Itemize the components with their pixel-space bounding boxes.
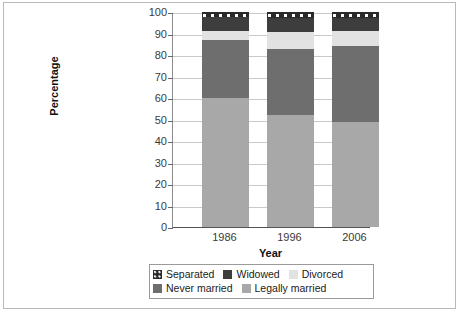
y-axis-tick [168,142,173,143]
legend-item[interactable]: Never married [153,283,233,294]
y-axis-tick-label: 80 [137,50,167,61]
legend-row: SeparatedWidowedDivorced [153,267,370,281]
plot-area [172,13,369,228]
x-axis-tick-label: 1996 [260,231,320,243]
legend-label: Separated [166,269,214,280]
legend-row: Never marriedLegally married [153,281,370,295]
stacked-bar-chart: 0102030405060708090100 Percentage 198619… [0,0,462,314]
bar-segment-widowed [332,18,379,31]
y-axis-tick [168,207,173,208]
bar-segment-separated [332,12,379,18]
legend-label: Divorced [302,269,343,280]
bar-1996 [267,12,314,227]
legend-swatch-icon [223,270,232,279]
x-axis-title: Year [172,247,369,259]
y-axis-tick [168,228,173,229]
y-axis-tick-label: 100 [137,7,167,18]
y-axis-tick-label: 40 [137,136,167,147]
legend-item[interactable]: Separated [153,269,214,280]
bar-2006 [332,12,379,227]
y-axis-tick [168,99,173,100]
y-axis-tick [168,185,173,186]
y-axis-tick [168,13,173,14]
legend-item[interactable]: Divorced [289,269,343,280]
y-axis-tick-label: 0 [137,222,167,233]
bar-segment-widowed [267,18,314,32]
legend-swatch-icon [153,270,162,279]
y-axis-tick-label: 70 [137,72,167,83]
y-axis-tick-labels: 0102030405060708090100 [133,13,167,228]
y-axis-tick [168,164,173,165]
legend-label: Never married [166,283,233,294]
bar-segment-never [332,46,379,121]
legend-label: Widowed [236,269,279,280]
x-axis-tick-labels: 198619962006 [172,231,369,247]
chart-legend: SeparatedWidowedDivorced Never marriedLe… [149,264,374,299]
legend-swatch-icon [242,284,251,293]
bar-1986 [202,12,249,227]
bar-segment-legally [267,115,314,227]
y-axis-tick-label: 30 [137,158,167,169]
y-axis-tick-label: 50 [137,115,167,126]
y-axis-tick [168,56,173,57]
bar-segment-legally [202,98,249,227]
legend-item[interactable]: Legally married [242,283,327,294]
y-axis-tick [168,121,173,122]
y-axis-tick-label: 90 [137,29,167,40]
bar-segment-separated [267,12,314,18]
y-axis-tick [168,35,173,36]
x-axis-tick-label: 1986 [195,231,255,243]
x-axis-tick-label: 2006 [325,231,385,243]
bar-segment-never [202,40,249,98]
legend-swatch-icon [289,270,298,279]
bar-segment-never [267,49,314,116]
bar-segment-divorced [332,31,379,46]
legend-swatch-icon [153,284,162,293]
bar-segment-widowed [202,17,249,31]
bar-segment-divorced [202,31,249,40]
legend-item[interactable]: Widowed [223,269,279,280]
y-axis-tick-label: 10 [137,201,167,212]
bar-segment-divorced [267,32,314,48]
y-axis-tick-label: 60 [137,93,167,104]
y-axis-title: Percentage [48,26,60,146]
y-axis-tick [168,78,173,79]
gridline [173,227,370,228]
y-axis-tick-label: 20 [137,179,167,190]
bar-segment-separated [202,12,249,17]
legend-label: Legally married [255,283,327,294]
bar-segment-legally [332,122,379,227]
